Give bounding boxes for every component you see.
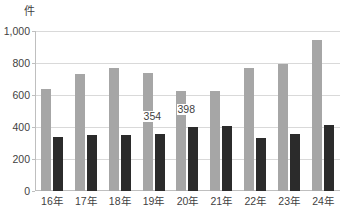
x-axis-tick-label: 24年 bbox=[306, 195, 340, 207]
y-axis-tick-label: 400 bbox=[0, 122, 30, 132]
x-axis-tick-label: 16年 bbox=[35, 195, 69, 207]
y-axis-tick-mark bbox=[32, 191, 35, 192]
y-axis-tick-label: 200 bbox=[0, 154, 30, 164]
x-axis-tick-label: 22年 bbox=[238, 195, 272, 207]
chart-title-cutoff bbox=[0, 0, 343, 5]
y-axis-tick-label: 600 bbox=[0, 90, 30, 100]
y-axis-tick-label: 800 bbox=[0, 58, 30, 68]
y-axis-tick-label: 0 bbox=[0, 186, 30, 196]
x-axis-tick-label: 20年 bbox=[171, 195, 205, 207]
data-labels: 354398 bbox=[35, 31, 340, 191]
data-label-398: 398 bbox=[177, 104, 197, 115]
x-axis-tick-label: 19年 bbox=[137, 195, 171, 207]
data-label-354: 354 bbox=[143, 111, 163, 122]
x-axis-tick-label: 23年 bbox=[272, 195, 306, 207]
y-axis-tick-label: 1,000 bbox=[0, 26, 30, 36]
plot-area: 02004006008001,000 16年17年18年19年20年21年22年… bbox=[35, 31, 340, 191]
x-axis-tick-label: 21年 bbox=[204, 195, 238, 207]
bar-chart: 件 02004006008001,000 16年17年18年19年20年21年2… bbox=[0, 0, 343, 224]
x-axis-tick-label: 18年 bbox=[103, 195, 137, 207]
x-axis-tick-label: 17年 bbox=[69, 195, 103, 207]
y-axis-unit-label: 件 bbox=[24, 5, 35, 17]
